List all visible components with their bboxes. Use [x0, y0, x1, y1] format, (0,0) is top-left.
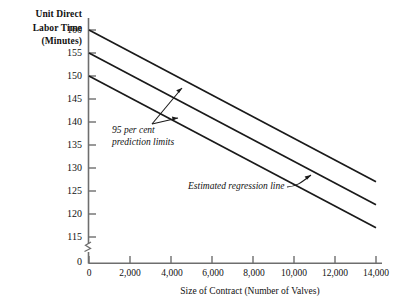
series-line-estimated-regression: [89, 53, 376, 205]
annotation-regression-line-leader: [287, 175, 311, 187]
y-axis-break-icon: [85, 242, 92, 252]
series-line-lower-prediction-limit: [89, 76, 376, 228]
chart-figure: Unit Direct Labor Time (Minutes) 160 155…: [0, 0, 407, 307]
chart-plot-area: [0, 0, 407, 307]
series-line-upper-prediction-limit: [89, 30, 376, 182]
